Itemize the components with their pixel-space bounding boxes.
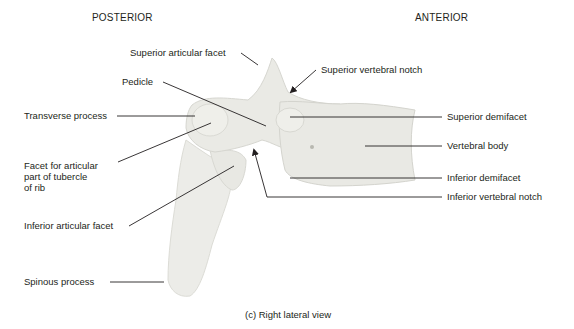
label-inferior-vertebral-notch: Inferior vertebral notch xyxy=(447,191,542,202)
posterior-label: POSTERIOR xyxy=(92,12,153,23)
figure-caption: (c) Right lateral view xyxy=(245,309,331,320)
label-superior-demifacet: Superior demifacet xyxy=(447,111,527,122)
label-superior-articular-facet: Superior articular facet xyxy=(130,47,226,58)
label-pedicle: Pedicle xyxy=(122,76,153,87)
label-spinous-process: Spinous process xyxy=(24,276,94,287)
label-inferior-articular-facet: Inferior articular facet xyxy=(24,220,113,231)
label-vertebral-body: Vertebral body xyxy=(447,140,508,151)
label-facet-tubercle-line3: of rib xyxy=(24,182,45,193)
label-facet-tubercle-line1: Facet for articular xyxy=(24,160,98,171)
anterior-label: ANTERIOR xyxy=(415,12,468,23)
label-superior-vertebral-notch: Superior vertebral notch xyxy=(321,64,422,75)
label-transverse-process: Transverse process xyxy=(24,110,107,121)
label-facet-tubercle-line2: part of tubercle xyxy=(24,171,87,182)
label-inferior-demifacet: Inferior demifacet xyxy=(447,172,520,183)
